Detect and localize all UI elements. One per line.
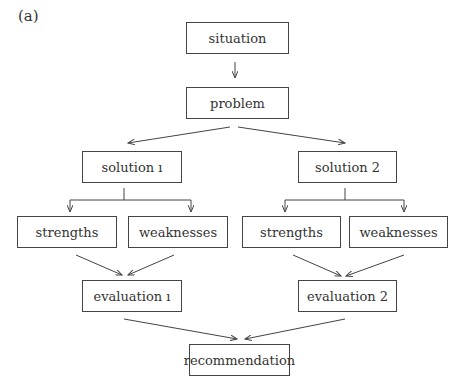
node-evaluation-1: evaluation ı (82, 280, 182, 312)
node-weaknesses-2: weaknesses (349, 216, 448, 248)
node-problem: problem (186, 87, 289, 119)
node-recommendation: recommendation (189, 344, 290, 376)
node-strengths-1: strengths (17, 216, 117, 248)
edge-evaluation1-recommendation (124, 319, 237, 339)
edge-solution1-branch (70, 188, 124, 212)
edge-problem-solution1 (128, 127, 230, 143)
edge-evaluation2-recommendation (245, 319, 345, 339)
edge-strengths1-evaluation1 (76, 255, 122, 275)
node-solution-1: solution ı (82, 151, 182, 183)
node-evaluation-2: evaluation 2 (298, 280, 397, 312)
edge-solution2-branch (285, 188, 345, 212)
flow-diagram: (a) situation problem solution ı solutio… (0, 0, 464, 389)
node-strengths-2: strengths (242, 216, 341, 248)
edge-solution1-weaknesses1 (124, 200, 191, 212)
edge-weaknesses2-evaluation2 (346, 255, 404, 276)
edge-solution2-weaknesses2 (345, 200, 404, 212)
edges-layer (0, 0, 464, 389)
edge-problem-solution2 (238, 127, 345, 143)
node-situation: situation (186, 22, 289, 54)
node-solution-2: solution 2 (298, 151, 397, 183)
edge-weaknesses1-evaluation1 (128, 255, 174, 275)
node-weaknesses-1: weaknesses (128, 216, 228, 248)
edge-strengths2-evaluation2 (293, 255, 341, 276)
